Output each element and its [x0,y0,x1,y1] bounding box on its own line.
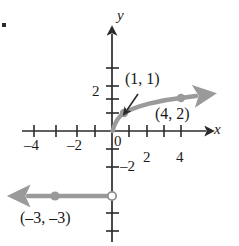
y-tick-label-2: 2 [92,84,100,99]
graph-figure: y x –4 –2 2 4 2 –2 0 (1, 1) (4, 2) (–3, … [0,0,239,246]
x-tick-label-4: 4 [176,150,184,165]
point-label-neg3-neg3: (–3, –3) [20,210,71,226]
x-tick-label-neg4: –4 [24,138,39,153]
origin-label: 0 [114,134,122,149]
open-endpoint-0-neg3 [108,192,116,200]
data-point-neg3-neg3 [50,191,59,200]
point-label-1-1: (1, 1) [125,71,160,87]
x-tick-label-2: 2 [143,150,151,165]
y-axis-label: y [117,8,124,23]
x-axis-label: x [214,122,221,137]
x-tick-label-neg2: –2 [67,138,82,153]
y-tick-label-neg2: –2 [120,159,135,174]
data-point-1-1 [120,109,128,117]
point-label-4-2: (4, 2) [155,106,190,122]
data-point-4-2 [177,94,185,102]
